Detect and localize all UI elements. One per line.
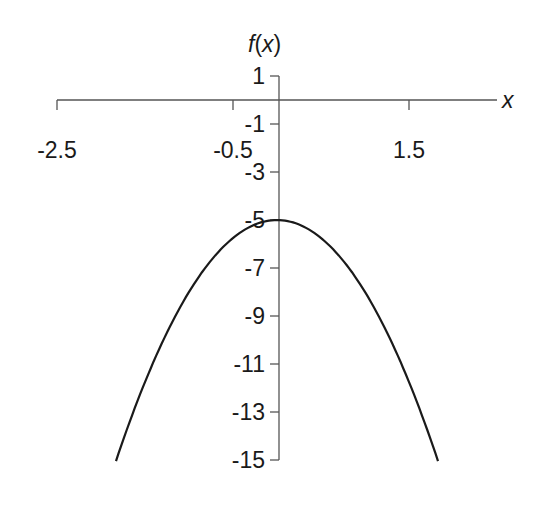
y-tick-label: -9 [245,303,265,329]
y-tick-label: -1 [245,111,265,137]
axes [57,76,497,460]
x-tick-label: 1.5 [393,137,425,163]
chart: -2.5-0.51.51-1-3-5-7-9-11-13-15 x f(x) [0,0,543,512]
x-tick-label: -2.5 [37,137,77,163]
y-tick-label: -13 [232,399,265,425]
y-tick-label: 1 [252,63,265,89]
y-tick-label: -5 [245,207,265,233]
function-curve [116,220,438,461]
y-axis-label: f(x) [248,31,281,57]
y-tick-label: -3 [245,159,265,185]
x-axis-label: x [501,87,515,113]
y-tick-label: -7 [245,255,265,281]
y-tick-label: -15 [232,447,265,473]
y-tick-label: -11 [233,351,265,377]
tick-labels: -2.5-0.51.51-1-3-5-7-9-11-13-15 [37,63,425,473]
